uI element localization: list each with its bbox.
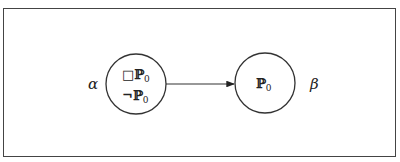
node-beta-formula: ℙ0 bbox=[256, 76, 272, 93]
node-alpha-formula-box: □ℙ0 bbox=[122, 67, 150, 84]
world-node-alpha: □ℙ0 ¬ℙ0 bbox=[106, 54, 166, 114]
diagram-canvas: α □ℙ0 ¬ℙ0 ℙ0 β bbox=[0, 0, 400, 162]
node-alpha-formula-neg: ¬ℙ0 bbox=[122, 88, 149, 105]
world-label-alpha: α bbox=[88, 75, 98, 93]
world-node-beta: ℙ0 bbox=[235, 53, 295, 113]
node-circle-alpha bbox=[106, 54, 166, 114]
world-label-beta: β bbox=[309, 75, 319, 93]
